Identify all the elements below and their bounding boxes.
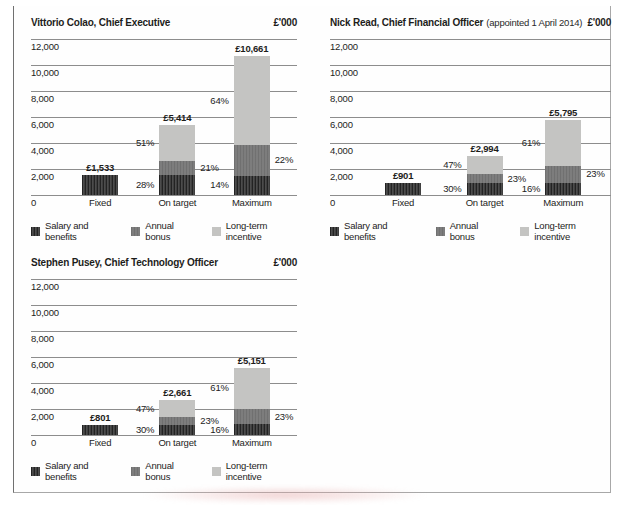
y-axis-tick-label: 6,000	[330, 119, 353, 130]
chart-panel-vittorio-colao: Vittorio Colao, Chief Executive £'000 12…	[31, 16, 297, 242]
gridline	[31, 279, 297, 280]
gridline	[31, 305, 297, 306]
category-label: On target	[137, 197, 217, 208]
bar-segment-bonus	[234, 145, 270, 175]
segment-percent-label: 30%	[420, 183, 462, 195]
segment-percent-label: 23%	[586, 168, 621, 180]
category-label: Fixed	[60, 197, 140, 208]
chart-title-row: Vittorio Colao, Chief Executive £'000	[31, 16, 297, 30]
bar-segment-lti	[545, 120, 581, 166]
legend-label-bonus: Annual bonus	[145, 460, 194, 482]
legend-swatch-lti-icon	[520, 227, 529, 236]
legend-swatch-lti-icon	[212, 467, 221, 476]
y-axis-tick-label: 0	[330, 197, 335, 208]
bar-segment-salary	[467, 183, 503, 195]
segment-percent-label: 28%	[112, 179, 154, 191]
y-axis-tick-label: 10,000	[31, 307, 59, 318]
category-label: Fixed	[60, 437, 140, 448]
y-axis-tick-label: 0	[31, 437, 36, 448]
y-axis-tick-label: 10,000	[31, 67, 59, 78]
chart-legend: Salary and benefits Annual bonus Long-te…	[31, 460, 297, 482]
legend-swatch-salary-icon	[31, 227, 40, 236]
category-label: Maximum	[212, 437, 292, 448]
y-axis-tick-label: 2,000	[31, 171, 54, 182]
legend-swatch-salary-icon	[31, 467, 40, 476]
chart-plot-area: 12,00010,0008,0006,0004,0002,0000£901Fix…	[330, 39, 611, 211]
legend-label-lti: Long-term incentive	[226, 220, 297, 242]
y-axis-tick-label: 10,000	[330, 67, 358, 78]
segment-percent-label: 61%	[498, 137, 540, 149]
legend-swatch-bonus-icon	[131, 467, 140, 476]
bar-segment-bonus	[234, 409, 270, 424]
chart-title-row: Nick Read, Chief Financial Officer (appo…	[330, 16, 611, 30]
legend-label-lti: Long-term incentive	[534, 220, 611, 242]
category-label: On target	[445, 197, 525, 208]
bar-segment-lti	[467, 156, 503, 174]
segment-percent-label: 14%	[187, 179, 229, 191]
gridline	[31, 39, 297, 40]
y-axis-tick-label: 8,000	[330, 93, 353, 104]
bar-segment-salary	[234, 176, 270, 195]
chart-unit-label: £'000	[273, 16, 297, 30]
segment-percent-label: 30%	[112, 424, 154, 436]
bar-segment-lti	[159, 400, 195, 416]
chart-unit-label: £'000	[587, 16, 611, 30]
y-axis-tick-label: 6,000	[31, 359, 54, 370]
segment-percent-label: 61%	[187, 382, 229, 394]
legend-swatch-bonus-icon	[131, 227, 140, 236]
legend-item-salary: Salary and benefits	[31, 220, 114, 242]
gridline	[31, 331, 297, 332]
legend-item-salary: Salary and benefits	[31, 460, 114, 482]
y-axis-tick-label: 2,000	[31, 411, 54, 422]
segment-percent-label: 22%	[275, 154, 317, 166]
gridline	[330, 195, 611, 196]
legend-label-salary: Salary and benefits	[45, 460, 114, 482]
legend-label-bonus: Annual bonus	[145, 220, 194, 242]
y-axis-tick-label: 2,000	[330, 171, 353, 182]
segment-percent-label: 47%	[420, 159, 462, 171]
bar-total-label: £1,533	[60, 162, 140, 173]
gridline	[31, 195, 297, 196]
legend-item-lti: Long-term incentive	[212, 460, 297, 482]
chart-plot-area: 12,00010,0008,0006,0004,0002,0000£801Fix…	[31, 279, 297, 451]
y-axis-tick-label: 8,000	[31, 93, 54, 104]
legend-swatch-lti-icon	[212, 227, 221, 236]
y-axis-tick-label: 12,000	[31, 41, 59, 52]
bar-segment-salary	[385, 183, 421, 195]
bar-segment-bonus	[467, 174, 503, 183]
gridline	[31, 435, 297, 436]
bar-total-label: £10,661	[212, 43, 292, 54]
y-axis-tick-label: 4,000	[31, 385, 54, 396]
legend-swatch-bonus-icon	[436, 227, 445, 236]
chart-panel-nick-read: Nick Read, Chief Financial Officer (appo…	[330, 16, 611, 242]
chart-legend: Salary and benefits Annual bonus Long-te…	[330, 220, 611, 242]
legend-label-salary: Salary and benefits	[344, 220, 419, 242]
legend-item-bonus: Annual bonus	[436, 220, 504, 242]
bar-total-label: £5,414	[137, 112, 217, 123]
legend-swatch-salary-icon	[330, 227, 339, 236]
legend-item-bonus: Annual bonus	[131, 220, 194, 242]
bar-segment-bonus	[545, 166, 581, 183]
bar-segment-lti	[159, 125, 195, 161]
y-axis-tick-label: 12,000	[31, 281, 59, 292]
legend-item-bonus: Annual bonus	[131, 460, 194, 482]
gridline	[330, 65, 611, 66]
segment-percent-label: 64%	[187, 95, 229, 107]
y-axis-tick-label: 0	[31, 197, 36, 208]
y-axis-tick-label: 12,000	[330, 41, 358, 52]
segment-percent-label: 23%	[275, 411, 317, 423]
chart-plot-area: 12,00010,0008,0006,0004,0002,0000£1,533F…	[31, 39, 297, 211]
legend-item-lti: Long-term incentive	[520, 220, 611, 242]
segment-percent-label: 16%	[498, 183, 540, 195]
gridline	[330, 39, 611, 40]
chart-title-note: (appointed 1 April 2014)	[486, 16, 582, 30]
chart-unit-label: £'000	[273, 256, 297, 270]
bar-total-label: £5,795	[523, 107, 603, 118]
chart-title: Stephen Pusey, Chief Technology Officer	[31, 256, 218, 270]
chart-legend: Salary and benefits Annual bonus Long-te…	[31, 220, 297, 242]
category-label: Maximum	[212, 197, 292, 208]
bar-total-label: £5,151	[212, 355, 292, 366]
legend-label-lti: Long-term incentive	[226, 460, 297, 482]
chart-title-row: Stephen Pusey, Chief Technology Officer …	[31, 256, 297, 270]
legend-label-bonus: Annual bonus	[450, 220, 504, 242]
